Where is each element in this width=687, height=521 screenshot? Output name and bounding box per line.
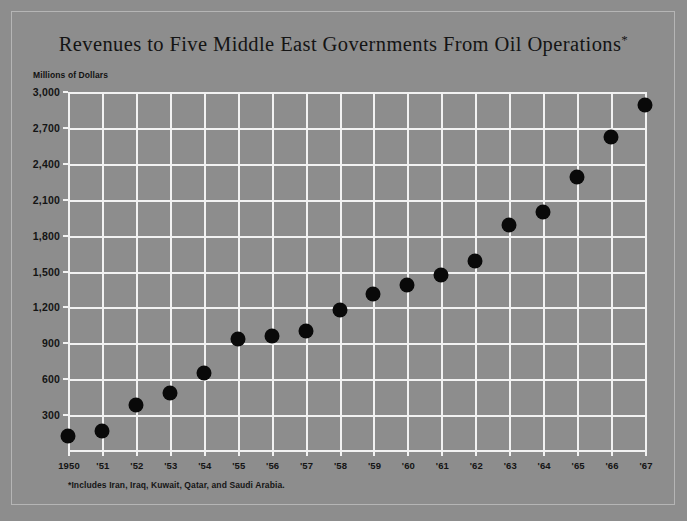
x-tick-label: '62 — [470, 460, 483, 471]
gridline-horizontal — [68, 128, 645, 130]
x-tick-mark — [611, 451, 613, 456]
x-tick-label: '55 — [232, 460, 245, 471]
y-tick-label: 1,800 — [14, 230, 60, 242]
x-tick-label: '52 — [130, 460, 143, 471]
x-tick-label: '53 — [164, 460, 177, 471]
x-tick-label: '63 — [504, 460, 517, 471]
x-tick-label: '59 — [368, 460, 381, 471]
x-tick-mark — [170, 451, 172, 456]
x-tick-label: '60 — [402, 460, 415, 471]
gridline-vertical — [475, 92, 477, 451]
x-tick-label: '67 — [639, 460, 652, 471]
chart-title-asterisk: * — [621, 32, 628, 47]
x-tick-mark — [68, 451, 70, 456]
gridline-vertical — [238, 92, 240, 451]
data-point — [128, 397, 143, 412]
chart-title-text: Revenues to Five Middle East Governments… — [59, 33, 622, 55]
gridline-vertical — [611, 92, 613, 451]
y-tick-label: 2,100 — [14, 194, 60, 206]
x-tick-mark — [509, 451, 511, 456]
data-point — [162, 385, 177, 400]
gridline-vertical — [306, 92, 308, 451]
gridline-vertical — [272, 92, 274, 451]
y-tick-mark — [63, 163, 68, 165]
y-tick-mark — [63, 127, 68, 129]
y-tick-label: 600 — [14, 373, 60, 385]
data-point — [604, 130, 619, 145]
x-tick-mark — [577, 451, 579, 456]
x-tick-mark — [645, 451, 647, 456]
x-tick-label: 1950 — [58, 460, 80, 471]
x-tick-label: '66 — [605, 460, 618, 471]
gridline-horizontal — [68, 92, 645, 94]
gridline-horizontal — [68, 415, 645, 417]
gridline-vertical — [407, 92, 409, 451]
y-tick-label: 300 — [14, 409, 60, 421]
gridline-horizontal — [68, 236, 645, 238]
x-tick-mark — [136, 451, 138, 456]
y-tick-mark — [63, 271, 68, 273]
gridline-horizontal — [68, 272, 645, 274]
x-tick-label: '57 — [300, 460, 313, 471]
data-point — [536, 204, 551, 219]
gridline-horizontal — [68, 164, 645, 166]
data-point — [264, 328, 279, 343]
gridline-vertical — [68, 92, 70, 451]
y-tick-mark — [63, 235, 68, 237]
x-tick-mark — [475, 451, 477, 456]
data-point — [638, 98, 653, 113]
x-tick-mark — [102, 451, 104, 456]
y-tick-mark — [63, 199, 68, 201]
x-tick-mark — [306, 451, 308, 456]
data-point — [196, 366, 211, 381]
x-tick-mark — [238, 451, 240, 456]
x-tick-mark — [373, 451, 375, 456]
gridline-vertical — [509, 92, 511, 451]
data-point — [230, 331, 245, 346]
gridline-horizontal — [68, 379, 645, 381]
x-tick-mark — [441, 451, 443, 456]
data-point — [332, 303, 347, 318]
gridline-horizontal — [68, 307, 645, 309]
y-tick-label: 900 — [14, 337, 60, 349]
x-tick-label: '65 — [572, 460, 585, 471]
y-tick-mark — [63, 414, 68, 416]
data-point — [366, 287, 381, 302]
x-tick-label: '61 — [436, 460, 449, 471]
y-tick-label: 2,700 — [14, 122, 60, 134]
y-tick-mark — [63, 342, 68, 344]
x-tick-mark — [543, 451, 545, 456]
x-tick-mark — [204, 451, 206, 456]
x-tick-label: '54 — [198, 460, 211, 471]
plot-area — [68, 92, 645, 451]
chart-title: Revenues to Five Middle East Governments… — [0, 32, 687, 56]
y-tick-mark — [63, 306, 68, 308]
gridline-horizontal — [68, 200, 645, 202]
y-tick-label: 1,500 — [14, 266, 60, 278]
x-tick-label: '64 — [538, 460, 551, 471]
gridline-vertical — [340, 92, 342, 451]
y-axis-label: Millions of Dollars — [33, 70, 108, 80]
y-tick-mark — [63, 378, 68, 380]
x-tick-mark — [340, 451, 342, 456]
data-point — [502, 217, 517, 232]
data-point — [298, 324, 313, 339]
x-axis-line — [68, 450, 645, 452]
data-point — [400, 278, 415, 293]
data-point — [434, 268, 449, 283]
x-tick-label: '51 — [96, 460, 109, 471]
chart-footnote: *Includes Iran, Iraq, Kuwait, Qatar, and… — [68, 480, 285, 490]
x-tick-label: '58 — [334, 460, 347, 471]
y-tick-mark — [63, 91, 68, 93]
y-tick-label: 1,200 — [14, 301, 60, 313]
data-point — [468, 253, 483, 268]
x-tick-label: '56 — [266, 460, 279, 471]
gridline-vertical — [543, 92, 545, 451]
y-tick-label: 3,000 — [14, 86, 60, 98]
data-point — [61, 429, 76, 444]
x-tick-mark — [407, 451, 409, 456]
data-point — [570, 169, 585, 184]
x-tick-mark — [272, 451, 274, 456]
gridline-vertical — [373, 92, 375, 451]
gridline-vertical — [102, 92, 104, 451]
